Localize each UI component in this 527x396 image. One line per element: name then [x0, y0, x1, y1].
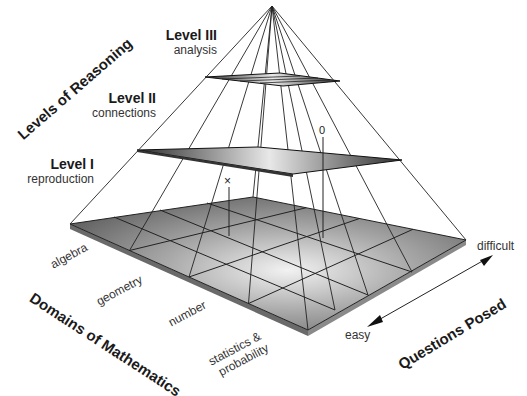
level-1-plane — [137, 147, 402, 177]
level-2-plane — [205, 73, 340, 86]
level-2-label: Level II connections — [92, 90, 156, 120]
difficulty-low-label: easy — [345, 328, 370, 342]
x-marker: × — [224, 174, 231, 188]
difficulty-high-label: difficult — [477, 239, 514, 253]
base-slab — [70, 197, 466, 336]
level-3-label: Level III analysis — [166, 27, 217, 57]
pyramid-diagram: × 0 Level III analysis Level II connecti… — [0, 0, 527, 396]
level-3-subtitle: analysis — [166, 43, 217, 57]
level-3-title: Level III — [166, 27, 217, 43]
level-2-title: Level II — [92, 90, 156, 106]
level-1-subtitle: reproduction — [27, 172, 94, 186]
o-marker: 0 — [319, 124, 325, 136]
level-1-title: Level I — [27, 156, 94, 172]
level-2-subtitle: connections — [92, 106, 156, 120]
level-1-label: Level I reproduction — [27, 156, 94, 186]
